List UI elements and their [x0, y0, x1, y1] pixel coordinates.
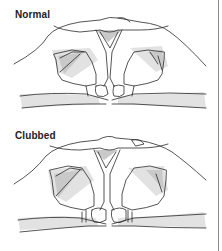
- panel-normal: Normal: [0, 0, 218, 122]
- clubbed-fingers-illustration: [0, 122, 218, 251]
- figure-border-right: [218, 0, 219, 251]
- panel-clubbed: Clubbed: [0, 122, 218, 251]
- medical-illustration: Normal: [0, 0, 222, 251]
- normal-fingers-illustration: [0, 0, 218, 122]
